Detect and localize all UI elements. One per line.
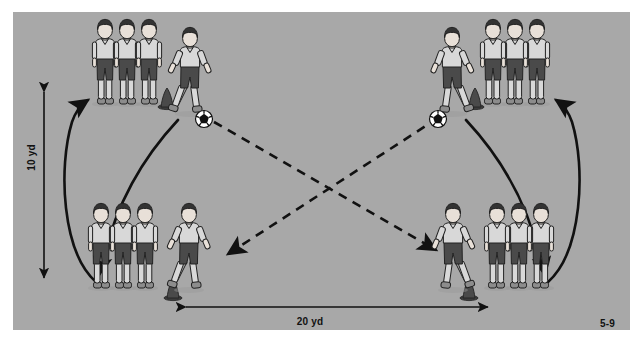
dimension-label-vertical: 10 yd — [26, 144, 37, 171]
figure-number: 5-9 — [600, 318, 615, 329]
figure-canvas: 10 yd 20 yd 5-9 — [0, 0, 642, 355]
dimension-label-horizontal: 20 yd — [297, 316, 324, 327]
playing-field — [13, 12, 630, 330]
